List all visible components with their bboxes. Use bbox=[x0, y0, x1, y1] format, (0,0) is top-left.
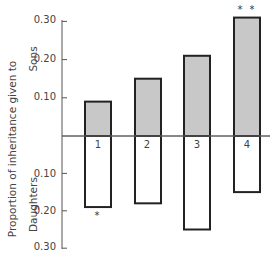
y-axis-label: Proportion of inheritance given to bbox=[6, 59, 18, 239]
bar-label-2: 2 bbox=[134, 139, 160, 150]
inheritance-chart: Proportion of inheritance given to Sons … bbox=[0, 0, 273, 261]
bar-sons-3 bbox=[184, 56, 210, 136]
bar-label-4: 4 bbox=[234, 139, 260, 150]
tick-upper-010: 0.10 bbox=[22, 91, 56, 102]
significance-marker-4: * * bbox=[234, 4, 260, 15]
tick-upper-020: 0.20 bbox=[22, 53, 56, 64]
bar-label-3: 3 bbox=[184, 139, 210, 150]
bar-sons-2 bbox=[135, 79, 161, 136]
tick-upper-030: 0.30 bbox=[22, 14, 56, 25]
plot-area bbox=[0, 0, 273, 261]
tick-lower-020: 0.20 bbox=[22, 205, 56, 216]
bar-daughters-3 bbox=[184, 136, 210, 230]
tick-lower-030: 0.30 bbox=[22, 241, 56, 252]
bar-sons-4 bbox=[234, 18, 260, 136]
bar-sons-1 bbox=[85, 102, 111, 136]
significance-marker-1: * bbox=[85, 210, 111, 221]
bar-label-1: 1 bbox=[85, 139, 111, 150]
tick-lower-010: 0.10 bbox=[22, 168, 56, 179]
